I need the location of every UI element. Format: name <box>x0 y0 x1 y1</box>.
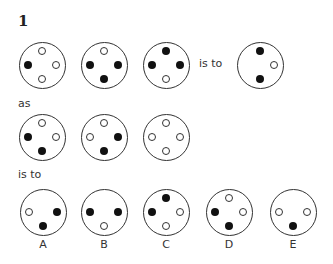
option-figure-b[interactable] <box>81 189 128 236</box>
open-dot-right-icon <box>303 208 311 216</box>
open-dot-right-icon <box>52 133 60 141</box>
row1-figure-4 <box>237 42 284 89</box>
open-dot-top-icon <box>100 119 108 127</box>
filled-dot-bottom-icon <box>225 222 233 230</box>
row2-figure-2 <box>81 114 128 161</box>
option-figure-c[interactable] <box>143 189 190 236</box>
option-label-a[interactable]: A <box>33 238 53 251</box>
filled-dot-left-icon <box>24 61 32 69</box>
row1-figure-1 <box>19 42 66 89</box>
filled-dot-left-icon <box>148 61 156 69</box>
option-label-d[interactable]: D <box>219 238 239 251</box>
filled-dot-bottom-icon <box>38 147 46 155</box>
filled-dot-left-icon <box>24 133 32 141</box>
filled-dot-top-icon <box>162 47 170 55</box>
row1-figure-2 <box>81 42 128 89</box>
open-dot-left-icon <box>275 208 283 216</box>
as-text: as <box>18 97 30 110</box>
option-label-b[interactable]: B <box>94 238 114 251</box>
open-dot-top-icon <box>38 119 46 127</box>
option-label-e[interactable]: E <box>283 238 303 251</box>
filled-dot-bottom-icon <box>100 147 108 155</box>
open-dot-top-icon <box>38 47 46 55</box>
row2-figure-1 <box>19 114 66 161</box>
option-figure-a[interactable] <box>20 189 67 236</box>
open-dot-bottom-icon <box>162 75 170 83</box>
filled-dot-left-icon <box>148 208 156 216</box>
open-dot-bottom-icon <box>162 147 170 155</box>
filled-dot-right-icon <box>176 61 184 69</box>
open-dot-right-icon <box>270 61 278 69</box>
filled-dot-right-icon <box>114 208 122 216</box>
filled-dot-left-icon <box>86 208 94 216</box>
open-dot-bottom-icon <box>100 222 108 230</box>
option-label-c[interactable]: C <box>156 238 176 251</box>
row2-figure-3 <box>143 114 190 161</box>
open-dot-left-icon <box>148 133 156 141</box>
open-dot-left-icon <box>25 208 33 216</box>
filled-dot-left-icon <box>211 208 219 216</box>
open-dot-top-icon <box>162 119 170 127</box>
row1-figure-3 <box>143 42 190 89</box>
question-number: 1 <box>18 12 28 30</box>
open-dot-bottom-icon <box>162 222 170 230</box>
filled-dot-top-icon <box>256 47 264 55</box>
open-dot-right-icon <box>52 61 60 69</box>
filled-dot-bottom-icon <box>39 222 47 230</box>
option-figure-e[interactable] <box>270 189 317 236</box>
is-to-text-1: is to <box>199 57 222 70</box>
filled-dot-bottom-icon <box>256 75 264 83</box>
filled-dot-bottom-icon <box>289 222 297 230</box>
filled-dot-right-icon <box>114 61 122 69</box>
open-dot-right-icon <box>239 208 247 216</box>
filled-dot-top-icon <box>162 194 170 202</box>
option-figure-d[interactable] <box>206 189 253 236</box>
filled-dot-right-icon <box>114 133 122 141</box>
filled-dot-left-icon <box>86 61 94 69</box>
open-dot-top-icon <box>100 47 108 55</box>
open-dot-bottom-icon <box>38 75 46 83</box>
filled-dot-bottom-icon <box>100 75 108 83</box>
is-to-text-2: is to <box>18 168 41 181</box>
open-dot-right-icon <box>176 133 184 141</box>
open-dot-right-icon <box>176 208 184 216</box>
open-dot-left-icon <box>86 133 94 141</box>
open-dot-top-icon <box>225 194 233 202</box>
filled-dot-right-icon <box>53 208 61 216</box>
